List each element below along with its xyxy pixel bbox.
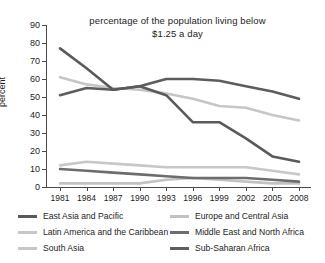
y-tick-label: 30	[30, 128, 40, 138]
legend-item[interactable]: Sub-Saharan Africa	[170, 240, 320, 256]
legend-swatch-icon	[18, 215, 37, 218]
x-tick-label: 1993	[157, 193, 176, 203]
y-tick-label: 20	[30, 146, 40, 156]
x-tick	[193, 187, 194, 191]
series-line	[60, 48, 299, 161]
chart-container: percentage of the population living belo…	[0, 0, 325, 263]
legend-item-label: Europe and Central Asia	[195, 211, 288, 221]
y-tick	[42, 187, 46, 188]
x-tick-label: 1981	[51, 193, 70, 203]
x-tick-label: 2002	[236, 193, 255, 203]
x-tick-label: 2005	[263, 193, 282, 203]
x-tick-label: 1999	[210, 193, 229, 203]
legend-item-label: Sub-Saharan Africa	[195, 243, 270, 253]
y-tick-label: 10	[30, 164, 40, 174]
x-tick	[87, 187, 88, 191]
legend-item-label: South Asia	[43, 243, 84, 253]
legend-item-label: Latin America and the Caribbean	[43, 227, 168, 237]
legend-item[interactable]: South Asia	[18, 240, 168, 256]
x-tick-label: 1984	[77, 193, 96, 203]
legend-item[interactable]: East Asia and Pacific	[18, 208, 168, 224]
x-tick-label: 1996	[183, 193, 202, 203]
x-tick	[60, 187, 61, 191]
y-tick-label: 50	[30, 92, 40, 102]
y-tick-label: 60	[30, 74, 40, 84]
legend-swatch-icon	[18, 231, 37, 234]
x-tick	[140, 187, 141, 191]
legend-item[interactable]: Latin America and the Caribbean	[18, 224, 168, 240]
series-line	[60, 77, 299, 120]
chart-legend: East Asia and PacificLatin America and t…	[18, 208, 318, 258]
x-tick-label: 1990	[130, 193, 149, 203]
y-tick-label: 90	[30, 20, 40, 30]
plot-area: 0102030405060708090 19811984198719901993…	[46, 25, 311, 187]
legend-swatch-icon	[170, 247, 189, 250]
legend-swatch-icon	[170, 215, 189, 218]
y-axis-title: percent	[0, 77, 7, 107]
x-tick	[166, 187, 167, 191]
y-tick-label: 0	[35, 182, 40, 192]
legend-swatch-icon	[18, 247, 37, 250]
legend-item[interactable]: Middle East and North Africa	[170, 224, 320, 240]
series-lines	[46, 25, 311, 187]
x-tick	[299, 187, 300, 191]
x-tick-label: 2008	[290, 193, 309, 203]
x-tick	[113, 187, 114, 191]
legend-item[interactable]: Europe and Central Asia	[170, 208, 320, 224]
y-tick-label: 70	[30, 56, 40, 66]
y-tick-label: 80	[30, 38, 40, 48]
legend-column-left: East Asia and PacificLatin America and t…	[18, 208, 168, 256]
x-tick-label: 1987	[104, 193, 123, 203]
legend-item-label: East Asia and Pacific	[43, 211, 123, 221]
legend-column-right: Europe and Central AsiaMiddle East and N…	[170, 208, 320, 256]
x-tick	[272, 187, 273, 191]
legend-item-label: Middle East and North Africa	[195, 227, 304, 237]
y-tick-label: 40	[30, 110, 40, 120]
legend-swatch-icon	[170, 231, 189, 234]
x-tick	[219, 187, 220, 191]
x-tick	[246, 187, 247, 191]
